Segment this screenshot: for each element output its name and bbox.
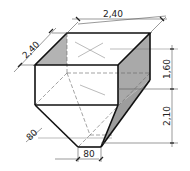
hopper-drawing: 2,40 2,40 1,60 2,10 80 80	[0, 0, 190, 171]
outlet-width-label: 80	[83, 149, 95, 159]
top-width-label: 2,40	[103, 9, 123, 19]
box-height-label: 1,60	[162, 59, 172, 79]
outlet-depth-label: 80	[24, 127, 39, 142]
funnel-height-label: 2,10	[162, 106, 172, 126]
top-depth-label: 2,40	[20, 39, 41, 60]
dimension-lines	[14, 16, 178, 162]
